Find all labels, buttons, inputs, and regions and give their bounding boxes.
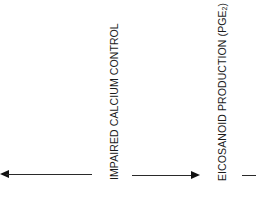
node-label: EICOSANOID PRODUCTION (PGE (216, 10, 228, 181)
node-eicosanoid-production: EICOSANOID PRODUCTION (PGE2) (216, 3, 231, 181)
diagram-canvas: IMPAIRED CALCIUM CONTROL EICOSANOID PROD… (0, 0, 256, 211)
node-label-end: ) (216, 3, 228, 7)
arrow-right-head-icon (191, 171, 200, 179)
arrow-to-right-offscreen (242, 175, 256, 176)
node-label-subscript: 2 (221, 6, 228, 10)
arrow-to-left (6, 174, 92, 175)
arrow-calcium-to-eicosanoid (132, 175, 192, 176)
node-label: IMPAIRED CALCIUM CONTROL (108, 23, 120, 180)
node-impaired-calcium-control: IMPAIRED CALCIUM CONTROL (108, 23, 120, 180)
